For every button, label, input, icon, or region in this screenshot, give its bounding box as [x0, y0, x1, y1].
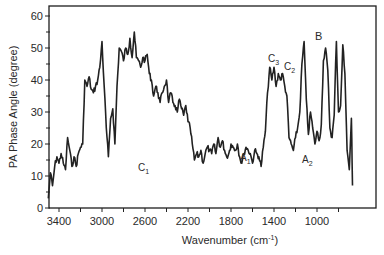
plot-frame	[49, 6, 376, 208]
annotation-b: B	[315, 30, 322, 42]
annotation-c1: C1	[138, 162, 149, 175]
x-tick-label: 2600	[133, 215, 157, 227]
x-tick-label: 1400	[262, 215, 286, 227]
x-tick-label: 3000	[90, 215, 114, 227]
annotation-a2: A2	[302, 154, 313, 167]
x-tick-label: 2200	[176, 215, 200, 227]
y-axis: 0102030405060	[31, 10, 50, 214]
annotation-c2: C2	[284, 61, 295, 74]
annotation-c3: C3	[268, 53, 279, 66]
x-axis-title: Wavenumber (cm-1)	[182, 234, 278, 246]
phase-angle-chart: 0102030405060 34003000260022001800140010…	[0, 0, 384, 255]
y-tick-label: 0	[37, 202, 43, 214]
x-axis: 3400300026002200180014001000	[47, 208, 339, 227]
x-tick-label: 3400	[47, 215, 71, 227]
x-tick-label: 1000	[305, 215, 329, 227]
y-tick-label: 50	[31, 42, 43, 54]
x-tick-label: 1800	[219, 215, 243, 227]
y-tick-label: 40	[31, 74, 43, 86]
y-tick-label: 10	[31, 170, 43, 182]
y-axis-title: PA Phase Angle (degree)	[7, 46, 19, 169]
y-tick-label: 30	[31, 106, 43, 118]
y-tick-label: 60	[31, 10, 43, 22]
spectrum-line	[48, 32, 352, 198]
y-tick-label: 20	[31, 138, 43, 150]
